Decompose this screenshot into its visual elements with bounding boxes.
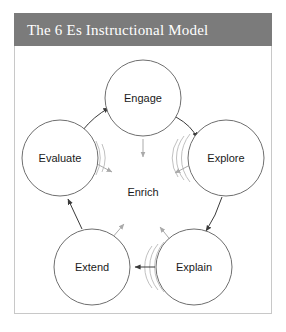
arrow-explore-to-explain [206,197,222,231]
node-label-engage: Engage [124,92,162,104]
arrow-engage-to-explore [176,117,197,138]
diagram-canvas: Engage Explore Explain Extend Evaluate E… [14,46,272,314]
arrow-evaluate-to-engage [82,108,109,131]
node-label-explore: Explore [207,152,244,164]
node-label-extend: Extend [75,261,109,273]
cycle-diagram: Engage Explore Explain Extend Evaluate E… [14,46,272,314]
page-title: The 6 Es Instructional Model [27,21,208,38]
node-label-explain: Explain [176,261,212,273]
figure-container: The 6 Es Instructional Model [0,0,286,332]
center-label-enrich: Enrich [127,186,158,198]
arrow-extend-to-evaluate [68,199,82,229]
title-bar: The 6 Es Instructional Model [14,13,272,46]
node-label-evaluate: Evaluate [39,152,82,164]
